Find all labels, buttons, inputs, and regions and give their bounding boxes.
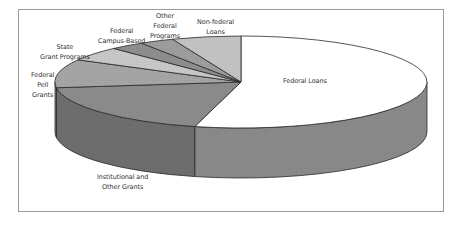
label-state-grant-programs: State Grant Programs: [40, 42, 90, 62]
pie-side-texture: [55, 82, 56, 138]
label-federal-campus-based: Federal Campus-Based: [98, 26, 145, 46]
label-other-federal-programs: Other Federal Programs: [150, 11, 180, 41]
label-federal-pell-grants: Federal Pell Grants: [31, 70, 54, 100]
label-nonfederal-loans: Non-federal Loans: [197, 17, 234, 37]
label-federal-loans: Federal Loans: [283, 76, 327, 86]
label-institutional-other-grants: Institutional and Other Grants: [97, 172, 148, 192]
